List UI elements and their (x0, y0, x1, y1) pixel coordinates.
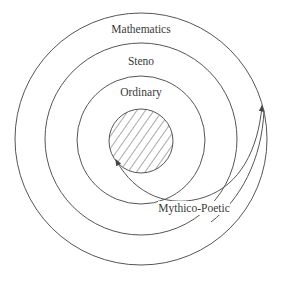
hatched-core (109, 109, 173, 173)
concentric-circles-diagram: Mathematics Steno Ordinary Mythico-Poeti… (0, 0, 282, 286)
label-mythico-poetic: Mythico-Poetic (158, 202, 230, 215)
label-steno: Steno (128, 55, 154, 67)
label-mathematics: Mathematics (111, 23, 171, 35)
label-ordinary: Ordinary (120, 86, 162, 99)
diagram-canvas: Mathematics Steno Ordinary Mythico-Poeti… (0, 0, 282, 286)
